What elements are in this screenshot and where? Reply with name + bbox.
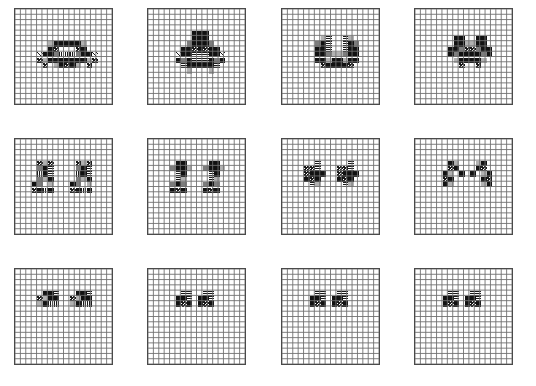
lattice-cell [187, 68, 193, 73]
lattice-panel-3 [281, 8, 380, 105]
lattice-panel-12 [414, 268, 513, 365]
lattice-cell [476, 63, 482, 68]
lattice-panel-11 [281, 268, 380, 365]
lattice-cell [354, 171, 360, 176]
lattice-cell [87, 188, 93, 193]
lattice-panel-2 [147, 8, 246, 105]
lattice-cell [476, 301, 482, 306]
panel-grid-6 [147, 138, 246, 235]
lattice-cell [321, 171, 327, 176]
panel-grid-1 [14, 8, 113, 105]
lattice-panel-9 [14, 268, 113, 365]
lattice-cell [76, 63, 82, 68]
lattice-panel-4 [414, 8, 513, 105]
panel-grid-4 [414, 8, 513, 105]
lattice-cell [459, 63, 465, 68]
lattice-cell [187, 301, 193, 306]
lattice-cell [220, 166, 226, 171]
panel-grid-5 [14, 138, 113, 235]
lattice-cell [348, 182, 354, 187]
cells-layer-1 [15, 9, 112, 104]
cells-layer-8 [415, 139, 512, 234]
lattice-cell [459, 171, 465, 176]
panel-grid-10 [147, 268, 246, 365]
lattice-panel-8 [414, 138, 513, 235]
cells-layer-7 [282, 139, 379, 234]
lattice-cell [48, 188, 54, 193]
lattice-cell [43, 63, 49, 68]
cells-layer-3 [282, 9, 379, 104]
lattice-cell [481, 58, 487, 63]
panel-grid-11 [281, 268, 380, 365]
cells-layer-4 [415, 9, 512, 104]
lattice-cell [470, 171, 476, 176]
lattice-panel-1 [14, 8, 113, 105]
lattice-cell [87, 301, 93, 306]
lattice-cell [209, 68, 215, 73]
lattice-panel-10 [147, 268, 246, 365]
lattice-cell [315, 182, 321, 187]
lattice-cell [187, 166, 193, 171]
cells-layer-6 [148, 139, 245, 234]
cells-layer-2 [148, 9, 245, 104]
panel-grid-12 [414, 268, 513, 365]
cells-layer-5 [15, 139, 112, 234]
lattice-cell [87, 63, 93, 68]
lattice-cell [487, 52, 493, 57]
lattice-panel-5 [14, 138, 113, 235]
lattice-cell [181, 188, 187, 193]
cells-layer-10 [148, 269, 245, 364]
lattice-cell [209, 301, 215, 306]
panel-grid-8 [414, 138, 513, 235]
figure-canvas [0, 0, 536, 386]
panel-grid-3 [281, 8, 380, 105]
lattice-cell [220, 58, 226, 63]
lattice-cell [92, 58, 98, 63]
cells-layer-12 [415, 269, 512, 364]
panel-grid-9 [14, 268, 113, 365]
lattice-cell [321, 301, 327, 306]
lattice-cell [487, 182, 493, 187]
cells-layer-11 [282, 269, 379, 364]
lattice-panel-7 [281, 138, 380, 235]
lattice-cell [214, 188, 220, 193]
panel-grid-2 [147, 8, 246, 105]
panel-grid-7 [281, 138, 380, 235]
lattice-cell [54, 301, 60, 306]
lattice-cell [454, 301, 460, 306]
lattice-panel-6 [147, 138, 246, 235]
cells-layer-9 [15, 269, 112, 364]
lattice-cell [214, 63, 220, 68]
lattice-cell [354, 58, 360, 63]
lattice-cell [448, 182, 454, 187]
lattice-cell [343, 301, 349, 306]
lattice-cell [348, 63, 354, 68]
